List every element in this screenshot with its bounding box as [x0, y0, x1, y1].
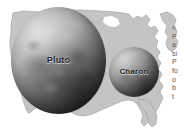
- charon-body: Charon: [109, 47, 159, 97]
- caption-line: fo: [172, 67, 184, 76]
- pluto-surface-texture: [11, 7, 106, 114]
- celestial-bodies-layer: Pluto Charon: [0, 0, 184, 130]
- caption-line: P: [172, 58, 184, 67]
- caption-line: a: [172, 41, 184, 50]
- caption-line: b: [172, 84, 184, 93]
- caption-line: o: [172, 76, 184, 85]
- caption-line: <: [172, 24, 184, 33]
- caption-line: si: [172, 50, 184, 59]
- pluto-charon-scale-figure: Pluto Charon < P a si P fo o b t: [0, 0, 184, 130]
- pluto-body: Pluto: [11, 7, 106, 114]
- caption-text-column: < P a si P fo o b t: [172, 24, 184, 101]
- caption-line: P: [172, 33, 184, 42]
- caption-line: t: [172, 93, 184, 102]
- charon-surface-texture: [109, 47, 159, 97]
